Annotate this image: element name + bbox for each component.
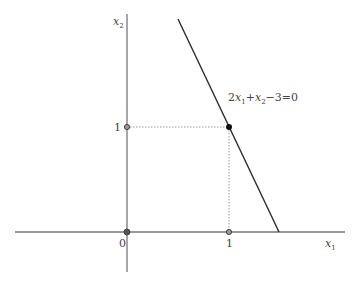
origin-point bbox=[124, 229, 130, 235]
x2-axis-label: x2 bbox=[113, 15, 124, 30]
x1-unit-point bbox=[226, 229, 231, 234]
x2-unit-point bbox=[124, 124, 129, 129]
origin-label: 0 bbox=[119, 237, 126, 250]
solution-point bbox=[226, 124, 232, 130]
diagram-canvas: x1 x2 0 1 1 2x1+x2−3=0 bbox=[0, 0, 356, 282]
equation-label: 2x1+x2−3=0 bbox=[228, 91, 298, 106]
x1-axis-label: x1 bbox=[325, 237, 336, 252]
x1-tick-1-label: 1 bbox=[226, 237, 233, 250]
x2-tick-1-label: 1 bbox=[114, 121, 121, 134]
